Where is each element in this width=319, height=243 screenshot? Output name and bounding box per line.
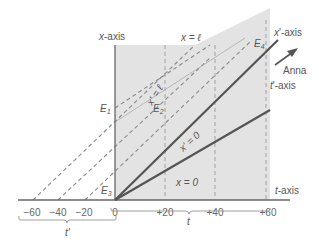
tick-minus40: −40 bbox=[50, 207, 67, 218]
event-e1: E1 bbox=[100, 103, 111, 115]
tick-minus60: −60 bbox=[24, 207, 41, 218]
t-prime-brace-label: t' bbox=[65, 227, 71, 238]
x-equals-0-label: x = 0 bbox=[175, 177, 198, 188]
arrow-up-right-icon bbox=[275, 48, 298, 65]
t-prime-axis-label: t'-axis bbox=[270, 80, 296, 91]
tick-0: 0 bbox=[112, 207, 118, 218]
t-brace-label: t bbox=[187, 216, 191, 227]
x-prime-axis-label: x'-axis bbox=[273, 27, 302, 38]
t-brace bbox=[111, 208, 270, 214]
spacetime-diagram: x-axis x = ℓ x'-axis Anna t'-axis t-axis… bbox=[0, 0, 319, 243]
x-equals-l-label: x = ℓ bbox=[180, 32, 201, 43]
t-axis-label: t-axis bbox=[275, 185, 299, 196]
tick-plus60: +60 bbox=[260, 207, 277, 218]
x-axis-label: x-axis bbox=[98, 31, 125, 42]
tick-plus40: +40 bbox=[207, 207, 224, 218]
tick-minus20: −20 bbox=[76, 207, 93, 218]
event-e3: E3 bbox=[101, 185, 112, 197]
tick-plus20: +20 bbox=[157, 207, 174, 218]
anna-label: Anna bbox=[283, 65, 307, 76]
